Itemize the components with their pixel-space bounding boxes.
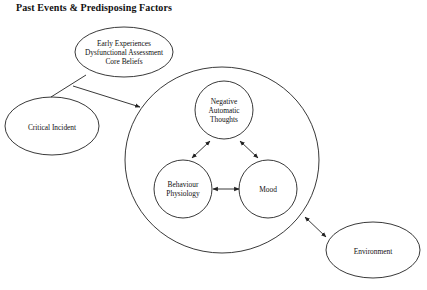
connector-early-critical xyxy=(51,75,86,97)
arrow-nat-behaviour xyxy=(192,141,210,158)
cycle-boundary-circle xyxy=(125,67,319,253)
nat-label: Negative Automatic Thoughts xyxy=(208,97,239,124)
early-experiences-label: Early Experiences Dysfunctional Assessme… xyxy=(85,39,163,66)
behaviour-line-1: Behaviour xyxy=(166,180,199,189)
mood-label: Mood xyxy=(259,185,277,194)
nat-line-2: Automatic xyxy=(208,106,239,115)
environment-label: Environment xyxy=(354,247,393,256)
behaviour-label: Behaviour Physiology xyxy=(166,180,199,198)
arrow-cycle-environment xyxy=(305,217,326,237)
behaviour-line-2: Physiology xyxy=(166,189,199,198)
nat-line-3: Thoughts xyxy=(208,115,239,124)
early-line-3: Core Beliefs xyxy=(85,57,163,66)
early-line-1: Early Experiences xyxy=(85,39,163,48)
nat-line-1: Negative xyxy=(208,97,239,106)
early-line-2: Dysfunctional Assessment xyxy=(85,48,163,57)
critical-incident-label: Critical Incident xyxy=(28,123,76,132)
arrow-nat-mood xyxy=(240,141,258,158)
